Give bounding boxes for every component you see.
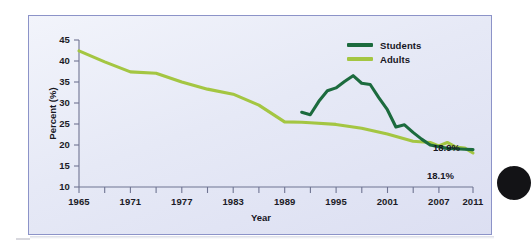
- legend-item-adults[interactable]: Adults: [347, 52, 477, 66]
- chart-legend: Students Adults: [347, 38, 477, 66]
- x-axis-title: Year: [29, 212, 493, 223]
- y-axis-ticks: [74, 40, 79, 187]
- x-axis-ticks: [79, 187, 473, 193]
- legend-label-adults: Adults: [380, 54, 410, 65]
- x-tick-label: 2001: [368, 196, 408, 207]
- legend-item-students[interactable]: Students: [347, 38, 477, 52]
- x-tick-label: 1971: [110, 196, 150, 207]
- annotation-adults-value: 18.1%: [427, 170, 454, 181]
- series-line-adults: [79, 51, 473, 153]
- y-tick-label: 40: [48, 55, 70, 66]
- plot-area: 45 40 35 30 25 20 15 10 1965 1971 1977 1…: [29, 16, 493, 236]
- page-rule: [16, 238, 30, 240]
- x-tick-label: 2011: [453, 196, 493, 207]
- x-tick-label: 1989: [265, 196, 305, 207]
- chart-panel: 45 40 35 30 25 20 15 10 1965 1971 1977 1…: [28, 15, 492, 235]
- annotation-students-value: 18.9%: [433, 142, 460, 153]
- series-line-students: [302, 76, 473, 150]
- x-tick-label: 1995: [316, 196, 356, 207]
- legend-swatch-adults: [347, 57, 373, 61]
- x-tick-label: 1983: [213, 196, 253, 207]
- panel-drop-shadow: [30, 236, 494, 239]
- y-axis-title: Percent (%): [47, 79, 58, 149]
- legend-label-students: Students: [380, 40, 421, 51]
- x-tick-label: 1965: [59, 196, 99, 207]
- y-tick-label: 45: [48, 34, 70, 45]
- y-tick-label: 10: [48, 181, 70, 192]
- x-tick-label: 1977: [162, 196, 202, 207]
- legend-swatch-students: [347, 43, 373, 47]
- y-tick-label: 15: [48, 160, 70, 171]
- page-bullet-dot: [497, 166, 531, 200]
